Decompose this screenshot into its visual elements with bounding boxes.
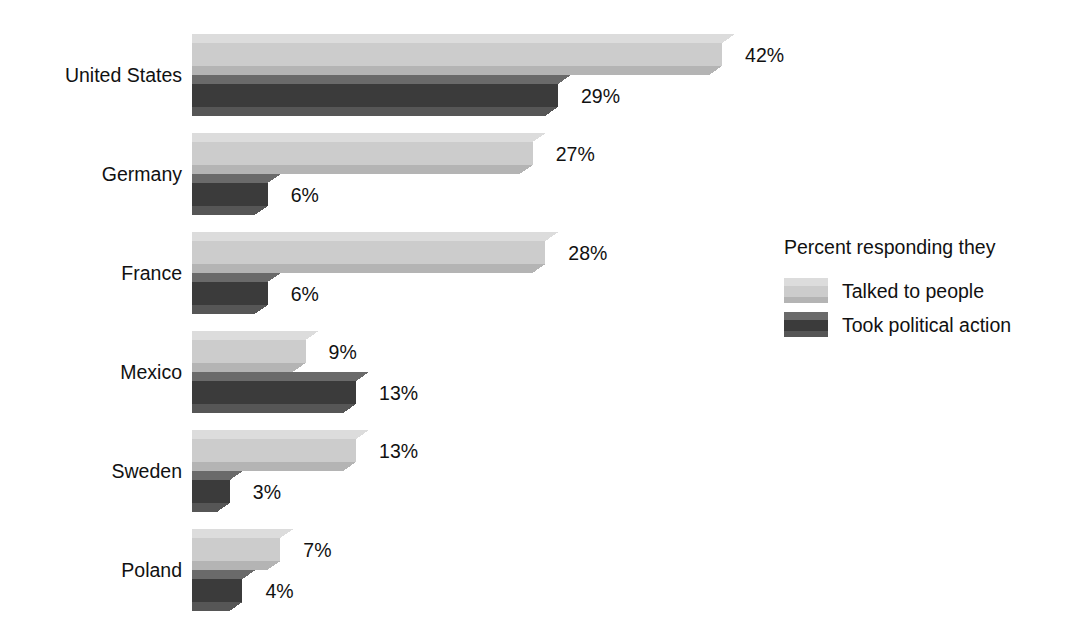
category-label-2: France [121,262,182,284]
category-label-5: Poland [121,559,182,581]
legend-swatch-bottom [784,331,828,337]
value-label-5-talked: 7% [303,539,331,561]
bar-bottom-face [192,363,306,372]
legend-swatch-top [784,312,828,320]
value-label-2-action: 6% [291,283,319,305]
value-label-1-action: 6% [291,184,319,206]
category-label-0: United States [65,64,182,86]
bar-top-face [192,273,281,282]
legend-label-1: Took political action [842,314,1011,336]
bar-1-talked [192,133,546,174]
bar-0-talked [192,34,735,75]
legend-title: Percent responding they [784,236,996,258]
bar-2-talked [192,232,558,273]
bar-0-action [192,75,571,116]
bar-bottom-face [192,206,268,215]
bar-front-face [192,142,533,165]
bar-front-face [192,282,268,305]
bar-front-face [192,84,558,107]
bar-top-face [192,75,571,84]
legend-swatch-1 [784,312,828,337]
legend-swatch-0 [784,278,828,303]
bar-front-face [192,340,306,363]
bar-bottom-face [192,264,545,273]
value-label-0-talked: 42% [745,44,784,66]
chart-canvas: United StatesGermanyFranceMexicoSwedenPo… [0,0,1072,643]
bar-front-face [192,480,230,503]
bar-bottom-face [192,462,356,471]
bar-top-face [192,133,546,142]
value-label-2-talked: 28% [568,242,607,264]
legend-swatch-front [784,286,828,297]
chart-legend: Percent responding theyTalked to peopleT… [784,236,1011,337]
bar-top-face [192,529,293,538]
bar-bottom-face [192,107,558,116]
bar-front-face [192,381,356,404]
bar-bottom-face [192,66,722,75]
bar-front-face [192,43,722,66]
bar-4-talked [192,430,369,471]
bar-chart: United StatesGermanyFranceMexicoSwedenPo… [0,0,1072,643]
value-label-5-action: 4% [265,580,293,602]
value-label-4-talked: 13% [379,440,418,462]
bar-top-face [192,232,558,241]
legend-label-0: Talked to people [842,280,984,302]
bar-front-face [192,241,545,264]
bar-front-face [192,538,280,561]
legend-swatch-top [784,278,828,286]
bar-bottom-face [192,561,280,570]
value-label-0-action: 29% [581,85,620,107]
category-label-4: Sweden [112,460,182,482]
bar-bottom-face [192,404,356,413]
bar-front-face [192,439,356,462]
bar-front-face [192,183,268,206]
bar-bottom-face [192,305,268,314]
bar-top-face [192,174,281,183]
legend-swatch-bottom [784,297,828,303]
value-label-1-talked: 27% [556,143,595,165]
bar-top-face [192,430,369,439]
category-label-3: Mexico [120,361,182,383]
bar-3-action [192,372,369,413]
bar-top-face [192,372,369,381]
bar-top-face [192,331,319,340]
value-label-3-talked: 9% [329,341,357,363]
value-label-4-action: 3% [253,481,281,503]
bar-3-talked [192,331,319,372]
value-label-3-action: 13% [379,382,418,404]
legend-swatch-front [784,320,828,331]
bar-top-face [192,34,735,43]
bar-bottom-face [192,165,533,174]
category-label-1: Germany [102,163,182,185]
bar-front-face [192,579,242,602]
